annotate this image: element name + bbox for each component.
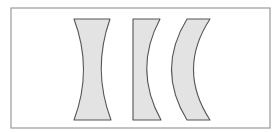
lens-diagram	[0, 0, 276, 132]
